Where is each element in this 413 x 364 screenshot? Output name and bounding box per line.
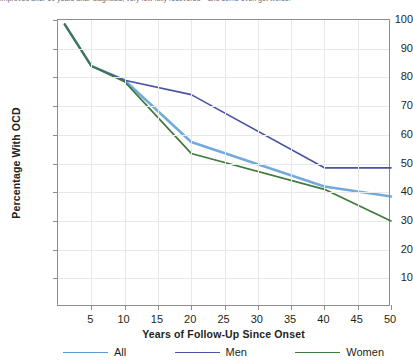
gridline-horizontal (58, 106, 389, 107)
y-axis-tick (53, 49, 58, 50)
legend-item-all[interactable]: All (63, 346, 126, 358)
x-axis-tick-label: 45 (351, 313, 363, 325)
gridline-horizontal (58, 135, 389, 136)
x-axis-tick-label: 5 (87, 313, 93, 325)
legend-label: All (114, 346, 126, 358)
x-axis-tick (258, 305, 259, 310)
chart-legend: AllMenWomen (57, 344, 390, 360)
x-axis-tick-label: 30 (251, 313, 263, 325)
x-axis-tick-label: 40 (317, 313, 329, 325)
gridline-vertical (191, 20, 192, 305)
gridline-vertical (324, 20, 325, 305)
y-axis-tick-label: 80 (365, 70, 413, 82)
y-axis-tick-label: 30 (365, 214, 413, 226)
x-axis-tick-label: 20 (184, 313, 196, 325)
y-axis-tick (53, 106, 58, 107)
gridline-vertical (258, 20, 259, 305)
x-axis-title: Years of Follow-Up Since Onset (57, 328, 390, 340)
gridline-vertical (125, 20, 126, 305)
gridline-vertical (158, 20, 159, 305)
gridline-horizontal (58, 278, 389, 279)
x-axis-tick-label: 10 (117, 313, 129, 325)
y-axis-tick (53, 20, 58, 21)
y-axis-tick-label: 50 (365, 157, 413, 169)
x-axis-tick (91, 305, 92, 310)
gridline-vertical (225, 20, 226, 305)
x-axis-tick (225, 305, 226, 310)
x-axis-tick (291, 305, 292, 310)
y-axis-tick (53, 192, 58, 193)
gridline-horizontal (58, 250, 389, 251)
y-axis-tick-label: 60 (365, 128, 413, 140)
gridline-vertical (91, 20, 92, 305)
chart-figure: 102030405060708090100 510152025303540455… (0, 8, 413, 364)
x-axis-tick (191, 305, 192, 310)
x-axis-tick (125, 305, 126, 310)
y-axis-tick-label: 100 (365, 13, 413, 25)
legend-item-women[interactable]: Women (295, 346, 384, 358)
series-line-men (65, 24, 391, 168)
x-axis-tick (158, 305, 159, 310)
legend-label: Men (226, 346, 247, 358)
x-axis-tick (391, 305, 392, 310)
x-axis-tick-label: 25 (217, 313, 229, 325)
y-axis-tick (53, 278, 58, 279)
y-axis-tick (53, 250, 58, 251)
series-line-all (65, 24, 391, 196)
gridline-vertical (358, 20, 359, 305)
plot-area (57, 19, 390, 306)
gridline-horizontal (58, 221, 389, 222)
legend-line-swatch-icon (175, 352, 220, 353)
gridline-horizontal (58, 77, 389, 78)
gridline-horizontal (58, 192, 389, 193)
y-axis-tick (53, 221, 58, 222)
legend-line-swatch-icon (295, 352, 340, 353)
x-axis-tick-label: 35 (284, 313, 296, 325)
legend-label: Women (346, 346, 384, 358)
legend-item-men[interactable]: Men (175, 346, 247, 358)
y-axis-tick-label: 40 (365, 185, 413, 197)
gridline-vertical (291, 20, 292, 305)
x-axis-tick-label: 50 (384, 313, 396, 325)
y-axis-tick (53, 164, 58, 165)
legend-line-swatch-icon (63, 352, 108, 353)
x-axis-tick (324, 305, 325, 310)
y-axis-tick (53, 77, 58, 78)
y-axis-tick-label: 20 (365, 243, 413, 255)
y-axis-tick-label: 70 (365, 99, 413, 111)
y-axis-tick-label: 10 (365, 271, 413, 283)
gridline-horizontal (58, 49, 389, 50)
y-axis-tick-label: 90 (365, 42, 413, 54)
y-axis-title: Percentage With OCD (10, 63, 22, 263)
figure-caption-text: improved after 10 years after diagnosis,… (0, 0, 413, 5)
gridline-horizontal (58, 164, 389, 165)
x-axis-tick (358, 305, 359, 310)
x-axis-tick-label: 15 (151, 313, 163, 325)
y-axis-tick (53, 135, 58, 136)
